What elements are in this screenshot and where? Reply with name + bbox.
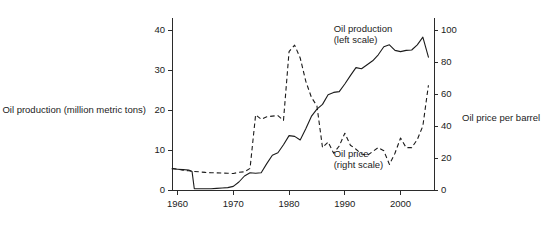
x-tick-label: 1960: [167, 198, 188, 209]
x-tick-label: 1970: [223, 198, 244, 209]
oil-price-annotation-line1: Oil price: [334, 148, 369, 159]
oil-production-price-chart: 010203040 020406080100 19601970198019902…: [0, 0, 549, 232]
right-tick-label: 80: [441, 56, 452, 67]
oil-production-annotation-line1: Oil production: [334, 23, 393, 34]
left-axis-title: Oil production (million metric tons): [2, 104, 146, 115]
right-tick-label: 40: [441, 120, 452, 131]
right-tick-label: 20: [441, 152, 452, 163]
x-tick-label: 2000: [390, 198, 411, 209]
left-tick-label: 0: [160, 184, 165, 195]
x-tick-label: 1990: [334, 198, 355, 209]
x-tick-label: 1980: [278, 198, 299, 209]
left-tick-label: 40: [154, 24, 165, 35]
right-axis-title: Oil price per barrel: [462, 112, 540, 123]
left-tick-label: 20: [154, 104, 165, 115]
right-tick-label: 60: [441, 88, 452, 99]
oil-price-annotation-line2: (right scale): [334, 159, 384, 170]
left-tick-label: 10: [154, 144, 165, 155]
left-tick-label: 30: [154, 64, 165, 75]
oil-production-annotation-line2: (left scale): [334, 34, 378, 45]
chart-page: 010203040 020406080100 19601970198019902…: [0, 0, 549, 232]
right-tick-label: 100: [441, 24, 457, 35]
right-tick-label: 0: [441, 184, 446, 195]
